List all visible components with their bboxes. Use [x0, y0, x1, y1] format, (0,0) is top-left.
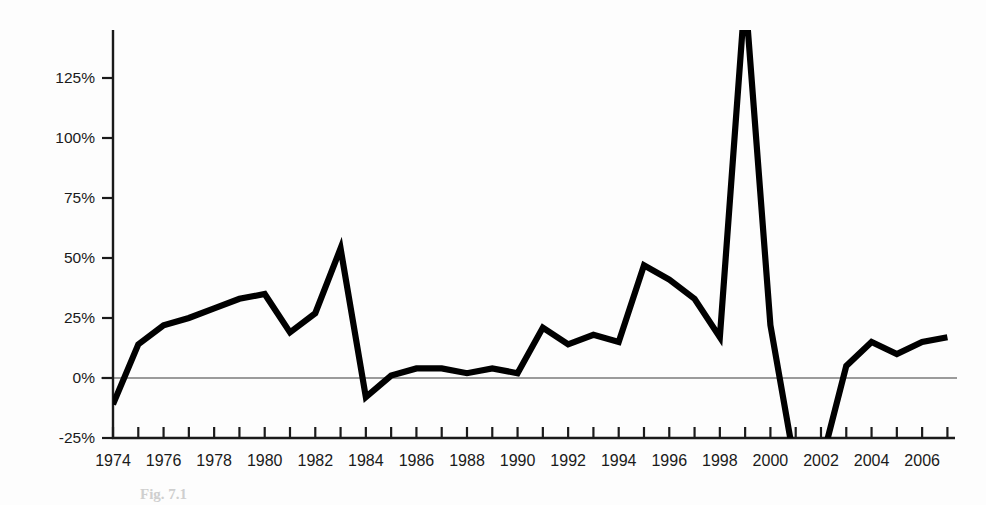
x-axis-tick-label: 1992	[550, 452, 586, 469]
x-axis-tick-label: 1986	[399, 452, 435, 469]
x-axis-tick-label: 1990	[500, 452, 536, 469]
x-axis-tick-label: 2000	[753, 452, 789, 469]
x-axis-tick-label: 2006	[904, 452, 940, 469]
line-chart: 125%100%75%50%25%0%-25% 1974197619781980…	[0, 0, 986, 505]
figure-caption: Fig. 7.1	[140, 486, 187, 503]
chart-axes	[113, 30, 955, 438]
figure-container: 125%100%75%50%25%0%-25% 1974197619781980…	[0, 0, 986, 505]
x-axis-tick-label: 1978	[196, 452, 232, 469]
y-axis-tick-labels: 125%100%75%50%25%0%-25%	[55, 69, 95, 446]
data-series-annual-change	[113, 0, 947, 469]
y-axis-ticks	[102, 78, 113, 438]
x-axis-tick-label: 2004	[854, 452, 890, 469]
x-axis-tick-label: 1982	[297, 452, 333, 469]
y-axis-tick-label: 25%	[64, 309, 95, 326]
x-axis-tick-label: 1974	[95, 452, 131, 469]
y-axis-tick-label: 100%	[55, 129, 95, 146]
y-axis-tick-label: 125%	[55, 69, 95, 86]
x-axis-tick-labels: 1974197619781980198219841986198819901992…	[95, 452, 940, 469]
x-axis-tick-label: 1988	[449, 452, 485, 469]
x-axis-tick-label: 1980	[247, 452, 283, 469]
y-axis-tick-label: 50%	[64, 249, 95, 266]
x-axis-tick-label: 1996	[651, 452, 687, 469]
x-axis-tick-label: 1984	[348, 452, 384, 469]
x-axis-tick-label: 2002	[803, 452, 839, 469]
y-axis-tick-label: 0%	[73, 369, 96, 386]
series-line-annual-change	[113, 0, 947, 469]
x-axis-tick-label: 1976	[146, 452, 182, 469]
x-axis-tick-label: 1998	[702, 452, 738, 469]
y-axis-tick-label: 75%	[64, 189, 95, 206]
x-axis-tick-label: 1994	[601, 452, 637, 469]
y-axis-tick-label: -25%	[59, 429, 95, 446]
x-axis-ticks	[113, 427, 947, 438]
